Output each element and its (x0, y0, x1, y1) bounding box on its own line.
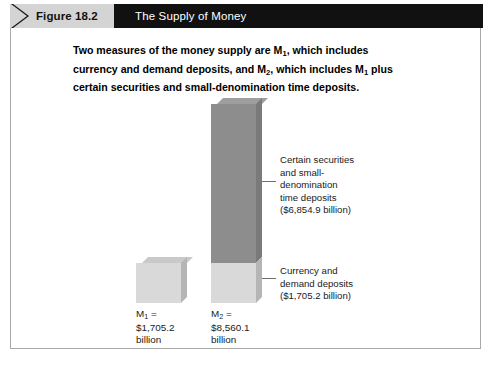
axis-label-m1: M1 = $1,705.2 billion (136, 308, 206, 347)
figure-body: Two measures of the money supply are M1,… (10, 28, 481, 349)
currency-callout: Currency and demand deposits ($1,705.2 b… (280, 265, 410, 303)
axis-label-m1-amount: $1,705.2 (136, 322, 206, 335)
bar-m2-side-face-lower (256, 257, 262, 303)
bar-m2-segment-securities (211, 104, 256, 263)
axis-label-m2-unit: billion (211, 334, 281, 347)
axis-label-m2-symbol: M (211, 308, 219, 319)
securities-callout-line-2: and small- (280, 167, 410, 180)
axis-label-m1-unit: billion (136, 334, 206, 347)
axis-label-m1-symbol: M (136, 308, 144, 319)
bar-m1-front-face (136, 263, 181, 303)
bar-m1-side-face (181, 257, 187, 303)
axis-label-m1-symbol-row: M1 = (136, 308, 206, 322)
axis-label-m1-equals: = (148, 308, 157, 319)
figure-header: Figure 18.2 The Supply of Money (10, 4, 483, 28)
securities-callout: Certain securities and small- denominati… (280, 154, 410, 217)
axis-label-m2-amount: $8,560.1 (211, 322, 281, 335)
leader-line-securities (262, 181, 276, 182)
currency-callout-line-1: Currency and (280, 265, 410, 278)
bar-m1-segment-currency (136, 263, 181, 303)
axis-label-m2-symbol-row: M2 = (211, 308, 281, 322)
securities-callout-amount: ($6,854.9 billion) (280, 204, 410, 217)
bar-m2 (211, 104, 256, 303)
figure-title: The Supply of Money (135, 10, 247, 22)
leader-line-currency (262, 278, 276, 279)
axis-label-m2-subscript: 2 (219, 312, 223, 321)
securities-callout-line-1: Certain securities (280, 154, 410, 167)
figure-number-label: Figure 18.2 (36, 10, 98, 22)
bar-m2-segment-currency (211, 263, 256, 303)
axis-label-m2: M2 = $8,560.1 billion (211, 308, 281, 347)
figure-number-tab: Figure 18.2 (10, 4, 114, 28)
chart-plot-area: Certain securities and small- denominati… (11, 28, 482, 349)
securities-callout-line-4: time deposits (280, 192, 410, 205)
currency-callout-amount: ($1,705.2 billion) (280, 290, 410, 303)
bar-m1 (136, 263, 181, 303)
axis-label-m2-equals: = (223, 308, 232, 319)
chevron-right-icon (11, 4, 33, 28)
securities-callout-line-3: denomination (280, 179, 410, 192)
axis-label-m1-subscript: 1 (144, 312, 148, 321)
currency-callout-line-2: demand deposits (280, 278, 410, 291)
bar-m2-front-face (211, 104, 256, 303)
figure-title-bar: The Supply of Money (114, 4, 483, 28)
